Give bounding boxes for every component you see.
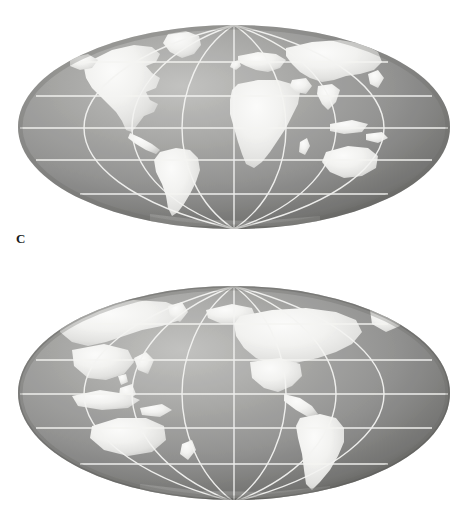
globe-c-illustration <box>0 0 468 266</box>
figure-c-panel: C <box>0 0 468 266</box>
figure-d-panel: D <box>0 266 468 532</box>
globe-c-container <box>0 0 468 266</box>
globe-d-container <box>0 266 468 532</box>
globe-d-illustration <box>0 266 468 532</box>
figure-c-label: C <box>16 231 26 247</box>
